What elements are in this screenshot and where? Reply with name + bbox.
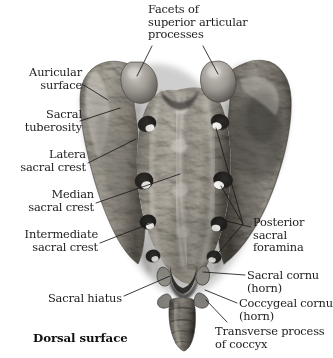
figure-caption: Dorsal surface bbox=[33, 331, 128, 345]
label-posterior-sacral-foramina: Posterior sacral foramina bbox=[253, 216, 304, 254]
label-auricular-surface: Auricular surface bbox=[10, 66, 82, 91]
label-median-sacral-crest: Median sacral crest bbox=[0, 188, 94, 213]
label-sacral-cornu: Sacral cornu (horn) bbox=[247, 269, 319, 294]
sacrum-dorsal-figure: Facets of superior articular processes A… bbox=[0, 0, 333, 358]
label-sacral-tuberosity: Sacral tuberosity bbox=[4, 108, 82, 133]
coccyx bbox=[169, 298, 196, 351]
label-lateral-sacral-crest: Latera sacral crest bbox=[0, 148, 86, 173]
label-transverse-process-of-coccyx: Transverse process of coccyx bbox=[215, 325, 325, 350]
label-intermediate-sacral-crest: Intermediate sacral crest bbox=[0, 228, 98, 253]
label-coccygeal-cornu: Coccygeal cornu (horn) bbox=[239, 297, 333, 322]
leader-coccygeal-cornu bbox=[205, 290, 237, 303]
leader-transverse-process bbox=[206, 300, 227, 322]
label-sacral-hiatus: Sacral hiatus bbox=[0, 292, 122, 305]
label-facets-of-superior-articular-processes: Facets of superior articular processes bbox=[148, 3, 248, 41]
